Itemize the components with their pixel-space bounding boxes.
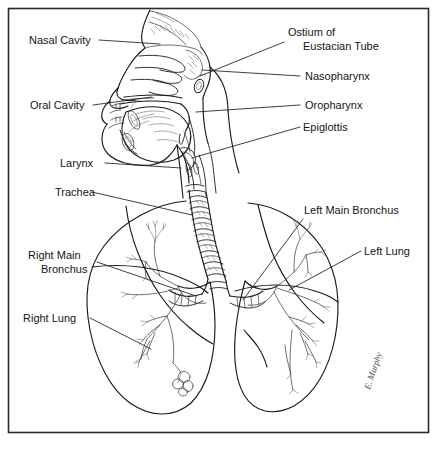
label-nasopharynx: Nasopharynx — [305, 70, 370, 82]
label-oral-cavity: Oral Cavity — [30, 99, 85, 111]
label-right-main-bronchus-line2: Bronchus — [41, 263, 88, 275]
label-trachea: Trachea — [55, 186, 96, 198]
label-left-lung: Left Lung — [364, 245, 410, 257]
diagram-canvas: Nasal Cavity Oral Cavity Larynx Trachea … — [0, 0, 437, 450]
label-nasal-cavity: Nasal Cavity — [29, 34, 91, 46]
label-right-lung: Right Lung — [23, 312, 76, 324]
label-ostium-line2: Eustacian Tube — [303, 40, 379, 52]
label-ostium-line1: Ostium of — [288, 26, 336, 38]
label-oropharynx: Oropharynx — [305, 99, 363, 111]
label-left-main-bronchus: Left Main Bronchus — [304, 204, 399, 216]
label-larynx: Larynx — [60, 157, 94, 169]
label-right-main-bronchus-line1: Right Main — [28, 249, 81, 261]
label-epiglottis: Epiglottis — [303, 121, 348, 133]
respiratory-diagram-figure: Nasal Cavity Oral Cavity Larynx Trachea … — [0, 0, 437, 450]
